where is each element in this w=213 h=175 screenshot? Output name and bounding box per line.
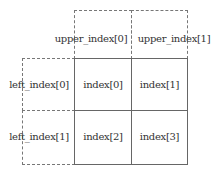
index-label-1: index[1] (131, 76, 188, 92)
upper-index-label-1: upper_index[1] (134, 30, 213, 46)
index-label-0: index[0] (74, 76, 132, 92)
index-label-3: index[3] (131, 128, 188, 144)
index-label-2: index[2] (74, 128, 132, 144)
left-index-label-1: left_index[1] (4, 128, 74, 144)
upper-index-label-0: upper_index[0] (50, 30, 132, 46)
left-index-label-0: left_index[0] (4, 76, 74, 92)
